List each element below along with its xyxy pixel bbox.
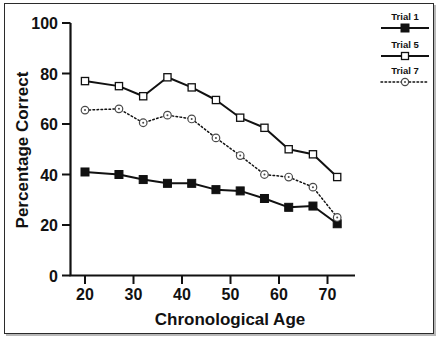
data-point — [261, 124, 268, 131]
data-point — [285, 203, 293, 211]
data-point-center — [288, 176, 290, 178]
y-axis-title: Percentage Correct — [13, 71, 32, 228]
y-axis-ticks — [62, 23, 71, 276]
data-point — [140, 93, 147, 100]
series-line — [85, 109, 337, 218]
legend-marker-dot — [404, 81, 406, 83]
data-point — [309, 151, 316, 158]
data-point-center — [191, 118, 193, 120]
legend-entry-trial-1[interactable]: Trial 1 — [381, 11, 429, 32]
series-trial-5 — [81, 74, 340, 181]
legend-label: Trial 1 — [391, 11, 419, 22]
data-point — [285, 146, 292, 153]
x-tick-label: 50 — [222, 286, 240, 303]
x-tick-label: 30 — [125, 286, 143, 303]
x-tick-label: 40 — [173, 286, 191, 303]
y-tick-label: 60 — [40, 116, 58, 133]
y-tick-label: 0 — [49, 268, 58, 285]
series-layer — [81, 74, 341, 228]
series-line — [85, 172, 337, 224]
data-point — [115, 171, 123, 179]
data-point-center — [166, 114, 168, 116]
y-tick-label: 80 — [40, 66, 58, 83]
series-trial-7 — [81, 105, 341, 221]
data-point — [188, 84, 195, 91]
x-tick-label: 60 — [270, 286, 288, 303]
legend-marker-open-square — [402, 53, 409, 60]
y-tick-label: 40 — [40, 167, 58, 184]
data-point-center — [336, 216, 338, 218]
data-point — [212, 186, 220, 194]
legend-label: Trial 5 — [391, 39, 419, 50]
series-line — [85, 77, 337, 177]
y-tick-label: 100 — [31, 15, 58, 32]
data-point — [309, 202, 317, 210]
chart-figure: 100 80 60 40 20 0 20 30 40 50 60 70 Chro… — [0, 0, 438, 340]
axes-frame — [71, 23, 356, 276]
data-point — [163, 179, 171, 187]
y-tick-label: 20 — [40, 217, 58, 234]
data-point — [139, 176, 147, 184]
series-trial-1 — [81, 168, 341, 228]
legend-entry-trial-7[interactable]: Trial 7 — [381, 65, 429, 86]
data-point — [260, 194, 268, 202]
data-point-center — [142, 122, 144, 124]
data-point — [188, 179, 196, 187]
x-axis-tick-labels: 20 30 40 50 60 70 — [76, 286, 336, 303]
data-point-center — [84, 109, 86, 111]
data-point — [236, 187, 244, 195]
data-point — [164, 74, 171, 81]
data-point-center — [215, 137, 217, 139]
data-point — [115, 83, 122, 90]
data-point — [81, 168, 89, 176]
data-point-center — [239, 155, 241, 157]
legend-label: Trial 7 — [391, 65, 418, 76]
legend: Trial 1 Trial 5 Trial 7 — [381, 11, 429, 86]
data-point — [212, 96, 219, 103]
data-point-center — [263, 174, 265, 176]
x-tick-label: 20 — [76, 286, 94, 303]
legend-marker-filled-square — [401, 24, 409, 32]
line-chart: 100 80 60 40 20 0 20 30 40 50 60 70 Chro… — [0, 0, 438, 340]
y-axis-tick-labels: 100 80 60 40 20 0 — [31, 15, 58, 285]
data-point-center — [118, 108, 120, 110]
legend-entry-trial-5[interactable]: Trial 5 — [381, 39, 429, 60]
data-point-center — [312, 186, 314, 188]
x-tick-label: 70 — [319, 286, 337, 303]
x-axis-ticks — [85, 276, 328, 285]
x-axis-title: Chronological Age — [155, 310, 306, 329]
data-point — [81, 77, 88, 84]
data-point — [237, 114, 244, 121]
data-point — [334, 173, 341, 180]
